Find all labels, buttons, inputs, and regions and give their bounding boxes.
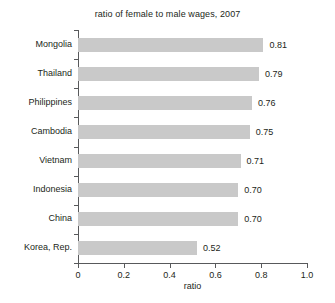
bar-value-label: 0.79	[265, 69, 283, 79]
y-axis-tick	[74, 147, 78, 148]
bar[interactable]	[78, 38, 263, 52]
bar-band: 0.70	[78, 205, 307, 234]
bar[interactable]	[78, 125, 250, 139]
bar-band: 0.75	[78, 117, 307, 146]
y-axis-tick	[74, 205, 78, 206]
x-axis-tick-label: 0.2	[118, 270, 131, 280]
x-axis-tick	[261, 264, 262, 268]
chart-title: ratio of female to male wages, 2007	[0, 9, 335, 19]
bar-chart: ratio of female to male wages, 2007 Mong…	[0, 0, 335, 303]
bar-value-label: 0.81	[269, 40, 287, 50]
x-axis-tick	[307, 264, 308, 268]
bar[interactable]	[78, 212, 238, 226]
y-axis-tick	[74, 88, 78, 89]
y-axis-label: Korea, Rep.	[0, 242, 72, 252]
y-axis-tick	[74, 234, 78, 235]
bar-band: 0.76	[78, 88, 307, 117]
bar-band: 0.81	[78, 30, 307, 59]
y-axis-label: China	[0, 213, 72, 223]
y-axis-label: Vietnam	[0, 155, 72, 165]
bar-value-label: 0.70	[244, 214, 262, 224]
bar[interactable]	[78, 154, 241, 168]
x-axis-tick-label: 0.8	[255, 270, 268, 280]
x-axis-tick-label: 0.6	[209, 270, 222, 280]
y-axis-label: Thailand	[0, 68, 72, 78]
y-axis-tick	[74, 117, 78, 118]
bar-value-label: 0.75	[256, 127, 274, 137]
x-axis-tick-label: 0	[75, 270, 80, 280]
y-axis-label: Cambodia	[0, 126, 72, 136]
bar-value-label: 0.76	[258, 98, 276, 108]
x-axis-tick	[124, 264, 125, 268]
x-axis-tick	[78, 264, 79, 268]
bar-band: 0.79	[78, 59, 307, 88]
bar[interactable]	[78, 96, 252, 110]
y-axis-label: Indonesia	[0, 184, 72, 194]
plot-area: 0.810.790.760.750.710.700.700.52 00.20.4…	[78, 30, 307, 263]
y-axis-category-labels: MongoliaThailandPhilippinesCambodiaVietn…	[0, 30, 72, 263]
bar[interactable]	[78, 67, 259, 81]
x-axis-tick-label: 1.0	[301, 270, 314, 280]
y-axis-label: Mongolia	[0, 39, 72, 49]
bar-band: 0.52	[78, 234, 307, 263]
bar[interactable]	[78, 183, 238, 197]
x-axis-tick	[170, 264, 171, 268]
bar-value-label: 0.52	[203, 243, 221, 253]
bar-value-label: 0.71	[247, 156, 265, 166]
y-axis-tick	[74, 176, 78, 177]
bar-band: 0.71	[78, 147, 307, 176]
x-axis-title: ratio	[78, 281, 307, 291]
x-axis-line	[78, 263, 308, 264]
x-axis-tick-label: 0.4	[163, 270, 176, 280]
y-axis-label: Philippines	[0, 97, 72, 107]
y-axis-tick	[74, 30, 78, 31]
x-axis-tick	[215, 264, 216, 268]
y-axis-tick	[74, 59, 78, 60]
bar-band: 0.70	[78, 176, 307, 205]
bar-value-label: 0.70	[244, 185, 262, 195]
bar[interactable]	[78, 241, 197, 255]
